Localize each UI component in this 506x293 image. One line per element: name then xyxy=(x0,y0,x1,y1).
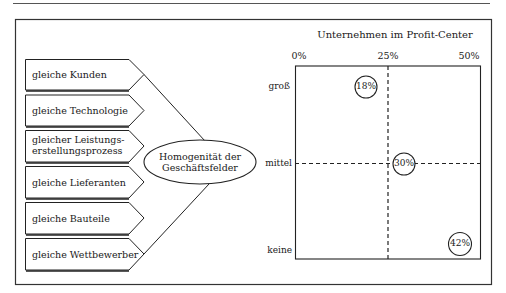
point-label-42: 42% xyxy=(449,238,471,249)
factor-label-1: gleiche Kunden xyxy=(32,69,107,80)
y-label-keine: keine xyxy=(250,245,292,256)
center-label-line1: Homogenität der xyxy=(144,151,256,162)
factor-label-3b: erstellungsprozess xyxy=(32,145,122,156)
factor-label-3a: gleicher Leistungs- xyxy=(32,134,124,145)
x-tick-25: 25% xyxy=(376,50,400,61)
center-label-line2: Geschäftsfelder xyxy=(144,162,256,173)
factor-boxes xyxy=(26,60,145,272)
y-label-gross: groß xyxy=(250,81,290,92)
point-label-30: 30% xyxy=(393,158,415,169)
point-label-18: 18% xyxy=(355,81,377,92)
factor-label-2: gleiche Technologie xyxy=(32,105,128,116)
figure: gleiche Kunden gleiche Technologie gleic… xyxy=(0,0,506,293)
factor-label-5: gleiche Bauteile xyxy=(32,213,110,224)
chart-title: Unternehmen im Profit-Center xyxy=(300,29,490,40)
factor-label-4: gleiche Lieferanten xyxy=(32,177,126,188)
connector-top xyxy=(144,75,205,142)
connector-bottom xyxy=(144,184,209,254)
x-tick-0: 0% xyxy=(289,50,309,61)
factor-label-6: gleiche Wettbewerber xyxy=(32,249,138,260)
x-tick-50: 50% xyxy=(457,50,481,61)
y-label-mittel: mittel xyxy=(250,158,292,169)
